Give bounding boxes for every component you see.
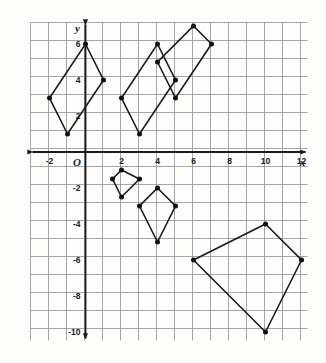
vertex-point (191, 258, 196, 263)
vertex-point (263, 222, 268, 227)
vertex-point (137, 177, 142, 182)
x-tick-label: 2 (119, 156, 124, 166)
vertex-point (137, 132, 142, 137)
vertex-point (209, 42, 214, 47)
vertex-point (173, 96, 178, 101)
vertex-point (173, 78, 178, 83)
vertex-point (101, 78, 106, 83)
vertex-point (155, 186, 160, 191)
vertex-point (110, 177, 115, 182)
vertex-point (65, 132, 70, 137)
x-tick-label: 8 (227, 156, 232, 166)
y-tick-label: -8 (73, 291, 81, 301)
vertex-point (137, 204, 142, 209)
y-axis-label: y (73, 22, 80, 34)
vertex-point (191, 24, 196, 29)
y-tick-label: 6 (76, 39, 81, 49)
y-tick-label: 4 (76, 75, 81, 85)
vertex-point (119, 168, 124, 173)
y-tick-label: -4 (73, 219, 81, 229)
vertex-point (299, 258, 304, 263)
x-tick-label: 10 (261, 156, 271, 166)
vertex-point (119, 195, 124, 200)
vertex-point (119, 96, 124, 101)
vertex-point (47, 96, 52, 101)
coordinate-plane-figure: -224681012 642-2-4-6-8-10 x y O (0, 0, 326, 363)
vertex-point (155, 42, 160, 47)
vertex-point (155, 240, 160, 245)
vertex-point (173, 204, 178, 209)
y-tick-label: -10 (68, 327, 81, 337)
y-tick-label: -6 (73, 255, 81, 265)
x-tick-label: 4 (155, 156, 160, 166)
x-axis-label: x (299, 156, 306, 168)
origin-label: O (73, 156, 81, 168)
vertex-point (263, 330, 268, 335)
vertex-point (83, 42, 88, 47)
x-tick-label: 6 (191, 156, 196, 166)
plot-canvas: -224681012 642-2-4-6-8-10 x y O (0, 0, 326, 363)
vertex-point (155, 60, 160, 65)
x-tick-label: -2 (46, 156, 54, 166)
y-tick-label: -2 (73, 183, 81, 193)
